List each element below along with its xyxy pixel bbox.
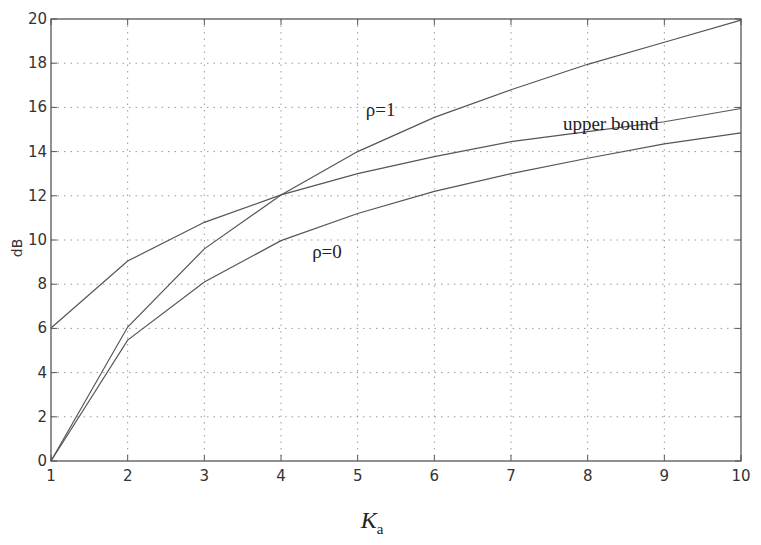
y-tick-label: 20 xyxy=(28,10,47,28)
y-tick-label: 14 xyxy=(28,143,47,161)
series-line-upper-bound xyxy=(51,109,741,328)
y-axis-label: dB xyxy=(9,239,25,258)
annotation-label: ρ=0 xyxy=(312,241,342,262)
x-tick-label: 10 xyxy=(731,467,750,485)
series-line-rho-1 xyxy=(51,20,741,461)
x-tick-label: 4 xyxy=(276,467,286,485)
annotation-label: ρ=1 xyxy=(366,99,396,120)
y-tick-label: 2 xyxy=(37,408,47,426)
annotations: ρ=1upper boundρ=0 xyxy=(312,99,659,261)
x-tick-label: 1 xyxy=(46,467,56,485)
x-axis-label-subscript: a xyxy=(377,521,384,537)
y-tick-label: 0 xyxy=(37,452,47,470)
series-line-rho-0 xyxy=(51,133,741,461)
x-tick-label: 5 xyxy=(353,467,363,485)
y-tick-label: 18 xyxy=(28,54,47,72)
y-tick-label: 10 xyxy=(28,231,47,249)
chart: 1234567891002468101214161820 ρ=1upper bo… xyxy=(0,0,761,545)
x-axis-label: Ka xyxy=(360,507,384,537)
y-tick-label: 6 xyxy=(37,319,47,337)
y-tick-label: 12 xyxy=(28,187,47,205)
annotation-label: upper bound xyxy=(563,113,659,134)
x-tick-label: 6 xyxy=(430,467,440,485)
y-tick-label: 4 xyxy=(37,364,47,382)
ticks: 1234567891002468101214161820 xyxy=(28,10,751,485)
x-tick-label: 2 xyxy=(123,467,133,485)
y-tick-label: 8 xyxy=(37,275,47,293)
series-layer xyxy=(51,20,741,461)
x-tick-label: 9 xyxy=(660,467,670,485)
grid xyxy=(51,19,741,461)
y-tick-label: 16 xyxy=(28,98,47,116)
x-tick-label: 8 xyxy=(583,467,593,485)
x-tick-label: 3 xyxy=(200,467,210,485)
x-tick-label: 7 xyxy=(506,467,516,485)
